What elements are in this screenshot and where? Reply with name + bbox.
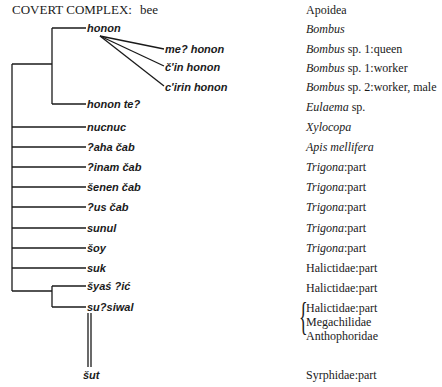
gloss-cirin-honon: Bombus sp. 2:worker, male — [306, 81, 437, 94]
gloss-syas-ic: Halictidae:part — [306, 282, 377, 295]
gloss-sut: Syrphidae:part — [306, 369, 377, 382]
curly-brace-icon: { — [299, 297, 308, 337]
gloss-honon: Bombus — [306, 23, 345, 36]
gloss-aha-cab: Apis mellifera — [306, 141, 374, 154]
term-suk: suk — [87, 262, 106, 274]
term-cin-honon: č'in honon — [165, 61, 220, 73]
gloss-suk: Halictidae:part — [306, 262, 377, 275]
gloss-us-cab: Trigona:part — [306, 201, 366, 214]
term-inam-cab: ?inam čab — [87, 161, 141, 173]
term-honon-te: honon te? — [87, 98, 140, 110]
gloss-senen-cab: Trigona:part — [306, 181, 366, 194]
term-me-honon: me? honon — [165, 43, 224, 55]
gloss-cin-honon: Bombus sp. 1:worker — [306, 62, 408, 75]
gloss-soy: Trigona:part — [306, 242, 366, 255]
term-sunul: sunul — [87, 222, 116, 234]
term-cirin-honon: c'irin honon — [165, 81, 228, 93]
gloss-inam-cab: Trigona:part — [306, 161, 366, 174]
term-susiwal: su?siwal — [87, 301, 133, 313]
term-soy: šoy — [87, 242, 106, 254]
term-sut: šut — [83, 369, 100, 381]
gloss-me-honon: Bombus sp. 1:queen — [306, 43, 402, 56]
term-aha-cab: ?aha čab — [87, 141, 135, 153]
term-us-cab: ?us čab — [87, 201, 129, 213]
term-honon: honon — [87, 22, 121, 34]
gloss-nucnuc: Xylocopa — [306, 121, 351, 134]
gloss-susiwal-2: Megachilidae — [306, 316, 371, 329]
term-senen-cab: šenen čab — [87, 181, 141, 193]
gloss-susiwal-3: Anthophoridae — [306, 330, 378, 343]
gloss-honon-te: Eulaema sp. — [306, 101, 365, 114]
term-nucnuc: nucnuc — [87, 121, 126, 133]
term-syas-ic: šyaś ?ić — [87, 280, 130, 292]
gloss-sunul: Trigona:part — [306, 222, 366, 235]
gloss-susiwal: Halictidae:part — [306, 302, 377, 315]
